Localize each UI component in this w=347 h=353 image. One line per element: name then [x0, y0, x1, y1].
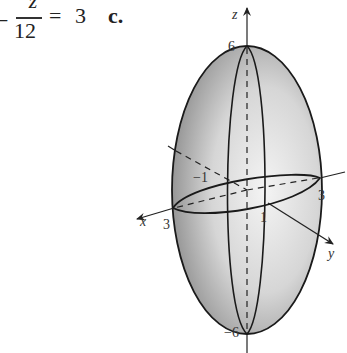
y-axis-label: y: [326, 246, 335, 261]
x-pos-tick: 3: [163, 217, 170, 232]
z-axis-label: z: [231, 7, 238, 22]
small-tick: 1: [260, 210, 267, 225]
x-axis-label: x: [139, 214, 147, 229]
x-axis-negative: [320, 172, 345, 178]
z-top-tick: 6: [228, 39, 235, 54]
ellipsoid-figure: z 6 −6 −1 3 3 1 x y: [0, 0, 347, 353]
z-bottom-tick: −6: [224, 325, 239, 340]
y-neg-tick: −1: [193, 170, 208, 185]
y-pos-tick: 3: [318, 188, 325, 203]
